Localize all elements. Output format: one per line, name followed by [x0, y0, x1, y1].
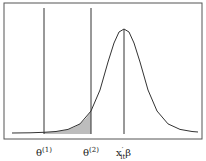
shaded-area	[44, 111, 91, 134]
theta2-label: θ(2)	[83, 144, 99, 159]
mean-label: x′itβ	[116, 144, 131, 161]
plot-frame	[4, 3, 202, 139]
density-diagram	[0, 0, 206, 161]
theta1-label: θ(1)	[36, 144, 52, 159]
density-curve	[12, 29, 198, 133]
